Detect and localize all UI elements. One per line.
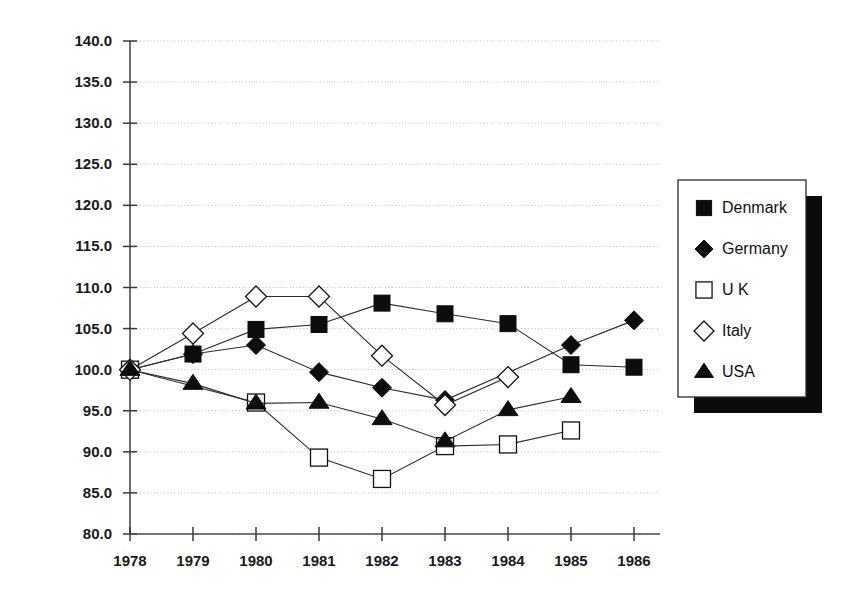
data-point-marker: [626, 359, 642, 375]
data-point-marker: [563, 357, 579, 373]
data-point-marker: [561, 387, 581, 402]
x-tick-label: 1979: [176, 552, 209, 569]
data-point-marker: [625, 311, 644, 330]
legend-label: U K: [722, 281, 749, 298]
x-tick-label: 1980: [239, 552, 272, 569]
y-tick-labels: 140.0135.0130.0125.0120.0115.0110.0105.0…: [74, 32, 112, 542]
series-group: [120, 286, 644, 487]
data-point-marker: [437, 306, 453, 322]
y-tick-label: 90.0: [83, 443, 112, 460]
legend-item-usa[interactable]: USA: [695, 363, 756, 380]
x-tick-label: 1981: [302, 552, 335, 569]
data-point-marker: [374, 470, 391, 487]
data-point-marker: [500, 436, 517, 453]
legend-item-u-k[interactable]: U K: [696, 281, 749, 298]
data-point-marker: [563, 422, 580, 439]
x-tick-label: 1978: [113, 552, 146, 569]
y-tick-label: 85.0: [83, 484, 112, 501]
data-point-marker: [183, 323, 204, 344]
y-axis: [123, 41, 137, 534]
y-tick-label: 135.0: [74, 73, 112, 90]
data-point-marker: [310, 363, 329, 382]
y-tick-label: 140.0: [74, 32, 112, 49]
legend: DenmarkGermanyU KItalyUSA: [678, 180, 822, 413]
y-tick-label: 130.0: [74, 114, 112, 131]
x-tick-labels: 197819791980198119821983198419851986: [113, 552, 650, 569]
legend-item-italy[interactable]: Italy: [694, 321, 751, 341]
legend-label: USA: [722, 363, 755, 380]
y-tick-label: 120.0: [74, 196, 112, 213]
chart-canvas: 140.0135.0130.0125.0120.0115.0110.0105.0…: [0, 0, 858, 608]
legend-label: Italy: [722, 322, 751, 339]
x-tick-label: 1984: [491, 552, 525, 569]
data-point-marker: [500, 316, 516, 332]
legend-label: Denmark: [722, 199, 788, 216]
x-tick-label: 1985: [554, 552, 587, 569]
y-tick-label: 100.0: [74, 361, 112, 378]
y-tick-label: 95.0: [83, 402, 112, 419]
y-tick-label: 115.0: [75, 237, 112, 254]
x-tick-label: 1986: [617, 552, 650, 569]
legend-label: Germany: [722, 240, 788, 257]
data-point-marker: [247, 336, 266, 355]
y-tick-label: 80.0: [83, 525, 112, 542]
y-tick-label: 125.0: [74, 155, 112, 172]
legend-marker-open-square-icon: [696, 282, 712, 298]
x-axis: [130, 527, 660, 541]
data-point-marker: [374, 295, 390, 311]
data-point-marker: [246, 286, 267, 307]
data-point-marker: [311, 449, 328, 466]
data-point-marker: [309, 393, 329, 408]
data-point-marker: [311, 316, 327, 332]
data-point-marker: [562, 336, 581, 355]
legend-marker-filled-square-icon: [696, 200, 711, 215]
x-tick-label: 1983: [428, 552, 461, 569]
line-chart: 140.0135.0130.0125.0120.0115.0110.0105.0…: [0, 0, 858, 608]
y-tick-label: 105.0: [74, 320, 112, 337]
y-tick-label: 110.0: [75, 279, 112, 296]
x-tick-label: 1982: [365, 552, 398, 569]
legend-item-denmark[interactable]: Denmark: [696, 199, 788, 216]
data-point-marker: [373, 378, 392, 397]
gridlines-group: [130, 41, 660, 534]
